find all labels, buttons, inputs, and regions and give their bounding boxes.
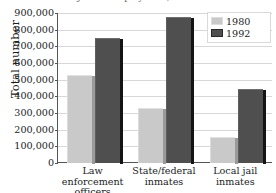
bar-1992-2	[166, 17, 191, 163]
bar-side	[191, 18, 194, 164]
legend-item-1992: 1992	[211, 27, 267, 39]
bar-face	[210, 137, 235, 163]
bar-1980-3	[210, 137, 235, 163]
y-axis-tick-label: 800,000	[0, 24, 54, 35]
bar-group	[58, 13, 129, 163]
chart-legend: 1980 1992	[207, 12, 271, 43]
bar-face	[166, 17, 191, 163]
bar-side	[263, 90, 266, 165]
y-axis-tick-label: 600,000	[0, 57, 54, 68]
y-axis-tick-label: 900,000	[0, 7, 54, 18]
y-axis-tick-label: 100,000	[0, 140, 54, 151]
legend-item-1980: 1980	[211, 15, 267, 27]
y-axis-tick-label: 200,000	[0, 124, 54, 135]
bar-face	[95, 38, 120, 163]
bar-face	[138, 108, 163, 163]
y-axis-tick-label: 400,000	[0, 90, 54, 101]
bar-1980-1	[67, 75, 92, 163]
bar-chart: Criminal justice employment, 1980 and 19…	[0, 0, 276, 193]
x-axis-category-line: Local jail	[192, 166, 276, 177]
bar-1992-1	[95, 38, 120, 163]
x-axis-category-line: inmates	[192, 177, 276, 188]
x-axis-category-label: Local jailinmates	[192, 166, 276, 187]
legend-label-1980: 1980	[226, 16, 250, 27]
y-axis-tick-label: 300,000	[0, 107, 54, 118]
bar-side	[120, 39, 123, 164]
bar-1992-3	[238, 89, 263, 164]
y-axis-tick-label: 700,000	[0, 40, 54, 51]
chart-title: Criminal justice employment, 1980 and 19…	[0, 0, 276, 2]
bar-face	[67, 75, 92, 163]
bar-group	[129, 13, 200, 163]
legend-swatch-icon-1980	[211, 17, 223, 25]
bar-1980-2	[138, 108, 163, 163]
y-axis-tick	[55, 163, 58, 164]
legend-swatch-icon-1992	[211, 29, 223, 37]
y-axis-tick-label: 0	[0, 157, 54, 168]
x-axis-category-line: officers	[49, 187, 136, 193]
y-axis-tick-label: 500,000	[0, 74, 54, 85]
legend-label-1992: 1992	[226, 28, 250, 39]
bar-face	[238, 89, 263, 164]
